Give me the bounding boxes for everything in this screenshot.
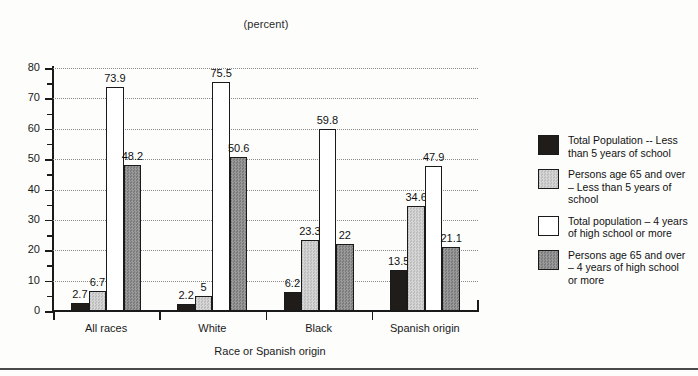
legend-item: Persons age 65 and over – Less than 5 ye…	[538, 168, 688, 206]
chart-title: (percent)	[196, 18, 336, 30]
y-axis-major-tick	[45, 159, 53, 161]
bar	[336, 244, 354, 311]
y-axis-major-tick	[45, 250, 53, 252]
legend-item-label: Total population – 4 years of high schoo…	[568, 215, 688, 240]
x-axis-group-tick	[53, 311, 55, 320]
x-axis-group-tick	[159, 311, 161, 320]
page-divider-rule	[0, 368, 698, 370]
y-axis-tick-label: 0	[10, 304, 40, 316]
y-axis-tick-label: 30	[10, 213, 40, 225]
y-axis-tick-label: 60	[10, 122, 40, 134]
y-axis-major-tick	[45, 129, 53, 131]
y-axis-major-tick	[45, 311, 53, 313]
y-axis-major-tick	[45, 98, 53, 100]
bar-value-label: 50.6	[221, 142, 257, 154]
bar-value-label: 47.9	[416, 151, 452, 163]
legend-item-label: Persons age 65 and over – 4 years of hig…	[568, 249, 688, 287]
y-axis-tick-label: 40	[10, 183, 40, 195]
y-axis-major-tick	[45, 281, 53, 283]
legend-item: Persons age 65 and over – 4 years of hig…	[538, 249, 688, 287]
legend-item-label: Total Population -- Less than 5 years of…	[568, 134, 688, 159]
bar	[230, 157, 248, 311]
bar-value-label: 59.8	[310, 114, 346, 126]
bar	[284, 292, 302, 311]
x-axis-group-tick	[266, 311, 268, 320]
y-axis-major-tick	[45, 68, 53, 70]
bar	[212, 82, 230, 311]
bar	[407, 206, 425, 311]
bar-value-label: 48.2	[115, 150, 151, 162]
bar	[390, 270, 408, 311]
x-axis-category-label: Black	[266, 322, 372, 334]
chart-figure: (percent) 01020304050607080 2.76.773.948…	[0, 0, 698, 376]
bar	[89, 291, 107, 311]
bar	[124, 165, 142, 311]
bar-value-label: 21.1	[433, 232, 469, 244]
x-axis-category-label: All races	[53, 322, 159, 334]
y-axis-major-tick	[45, 220, 53, 222]
x-axis-title: Race or Spanish origin	[170, 345, 370, 357]
x-axis-category-label: Spanish origin	[372, 322, 478, 334]
y-axis-tick-label: 70	[10, 91, 40, 103]
bar	[301, 240, 319, 311]
chart-legend: Total Population -- Less than 5 years of…	[538, 134, 688, 295]
bar-value-label: 22	[327, 229, 363, 241]
dark-gray-swatch	[538, 250, 559, 270]
y-axis-tick-label: 80	[10, 61, 40, 73]
y-axis-tick-label: 20	[10, 243, 40, 255]
y-axis-tick-label: 10	[10, 274, 40, 286]
bar	[71, 303, 89, 311]
white-swatch	[538, 216, 559, 236]
legend-item: Total population – 4 years of high schoo…	[538, 215, 688, 240]
bar	[177, 304, 195, 311]
y-axis-major-tick	[45, 190, 53, 192]
bar-value-label: 73.9	[97, 72, 133, 84]
plot-area: 2.76.773.948.22.2575.550.66.223.359.8221…	[53, 68, 478, 311]
x-axis-group-tick	[372, 311, 374, 320]
bar-value-label: 75.5	[203, 67, 239, 79]
gridline	[53, 68, 478, 69]
bar	[106, 87, 124, 311]
black-swatch	[538, 135, 559, 155]
y-axis-tick-label: 50	[10, 152, 40, 164]
legend-item-label: Persons age 65 and over – Less than 5 ye…	[568, 168, 688, 206]
bar	[442, 247, 460, 311]
bar	[195, 296, 213, 311]
bar	[319, 129, 337, 311]
legend-item: Total Population -- Less than 5 years of…	[538, 134, 688, 159]
light-gray-swatch	[538, 169, 559, 189]
x-axis-category-label: White	[159, 322, 265, 334]
